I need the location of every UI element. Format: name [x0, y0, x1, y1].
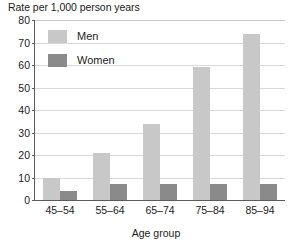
y-tick-label: 60 [18, 60, 30, 71]
bar-women-0 [60, 191, 77, 200]
bar-chart: Rate per 1,000 person years 010203040506… [0, 0, 292, 246]
bar-women-4 [260, 184, 277, 200]
legend-item-women: Women [48, 50, 115, 70]
x-tick-label: 55–64 [95, 204, 124, 216]
bar-group [243, 20, 277, 200]
y-tick-mark [32, 200, 35, 201]
bar-women-3 [210, 184, 227, 200]
y-tick-label: 10 [18, 172, 30, 183]
x-tick-label: 45–54 [45, 204, 74, 216]
legend-label: Men [77, 30, 98, 42]
legend-swatch-men-icon [48, 30, 67, 43]
y-tick-label: 50 [18, 82, 30, 93]
plot-area: 01020304050607080 45–5455–6465–7475–8485… [35, 20, 285, 200]
y-tick-label: 80 [18, 15, 30, 26]
y-tick-label: 70 [18, 37, 30, 48]
bar-women-2 [160, 184, 177, 200]
bar-women-1 [110, 184, 127, 200]
bar-group [193, 20, 227, 200]
x-axis-label: Age group [0, 227, 292, 239]
legend-label: Women [77, 54, 115, 66]
x-axis-label-text: Age group [132, 227, 180, 239]
y-tick-label: 0 [24, 195, 30, 206]
legend-swatch-women-icon [48, 54, 67, 67]
bar-men-1 [93, 153, 110, 200]
bar-men-2 [143, 124, 160, 201]
bar-men-3 [193, 67, 210, 200]
y-tick-label: 40 [18, 105, 30, 116]
legend: MenWomen [48, 26, 115, 74]
bar-men-4 [243, 34, 260, 201]
chart-title: Rate per 1,000 person years [8, 1, 140, 13]
bar-group [143, 20, 177, 200]
x-tick-label: 85–94 [245, 204, 274, 216]
y-tick-label: 20 [18, 150, 30, 161]
x-axis-line [34, 200, 285, 201]
legend-item-men: Men [48, 26, 115, 46]
x-tick-label: 65–74 [145, 204, 174, 216]
bar-men-0 [43, 178, 60, 201]
x-tick-label: 75–84 [195, 204, 224, 216]
y-tick-label: 30 [18, 127, 30, 138]
